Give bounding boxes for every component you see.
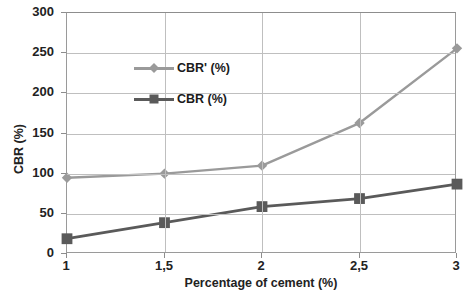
- gridline-horizontal: [67, 134, 455, 135]
- legend-swatch-diamond: [134, 61, 174, 75]
- diamond-marker-icon: [148, 62, 160, 74]
- plot-area: [66, 12, 456, 253]
- y-tick-label: 250: [32, 45, 54, 58]
- y-tick-label: 200: [32, 85, 54, 98]
- y-axis-title: CBR (%): [12, 104, 26, 194]
- chart-figure: 050100150200250300 11,522,53 Percentage …: [0, 0, 465, 296]
- legend-label-cbr: CBR (%): [177, 92, 227, 106]
- legend-item-cbr-prime[interactable]: CBR' (%): [134, 60, 230, 76]
- y-tick-mark: [61, 213, 66, 214]
- y-tick-label: 300: [32, 5, 54, 18]
- y-tick-label: 100: [32, 166, 54, 179]
- y-tick-mark: [61, 12, 66, 13]
- x-axis-title: Percentage of cement (%): [66, 276, 456, 290]
- gridline-horizontal: [67, 53, 455, 54]
- y-tick-label: 50: [40, 206, 54, 219]
- y-tick-label: 0: [47, 246, 54, 259]
- gridline-vertical: [360, 13, 361, 252]
- x-tick-label: 3: [426, 259, 465, 272]
- legend-swatch-square: [134, 92, 174, 106]
- y-tick-mark: [61, 133, 66, 134]
- y-tick-mark: [61, 173, 66, 174]
- legend-label-cbr-prime: CBR' (%): [177, 61, 230, 75]
- gridline-horizontal: [67, 214, 455, 215]
- legend-item-cbr[interactable]: CBR (%): [134, 91, 230, 107]
- data-point-marker[interactable]: [62, 233, 73, 244]
- x-tick-label: 2,5: [329, 259, 389, 272]
- data-point-marker[interactable]: [452, 179, 463, 190]
- y-tick-mark: [61, 92, 66, 93]
- y-tick-label: 150: [32, 126, 54, 139]
- x-tick-label: 1,5: [134, 259, 194, 272]
- gridline-horizontal: [67, 93, 455, 94]
- square-marker-icon: [148, 93, 160, 105]
- gridline-horizontal: [67, 174, 455, 175]
- gridline-vertical: [165, 13, 166, 252]
- y-tick-mark: [61, 52, 66, 53]
- x-tick-label: 1: [36, 259, 96, 272]
- x-tick-label: 2: [231, 259, 291, 272]
- legend: CBR' (%) CBR (%): [134, 60, 230, 107]
- gridline-vertical: [262, 13, 263, 252]
